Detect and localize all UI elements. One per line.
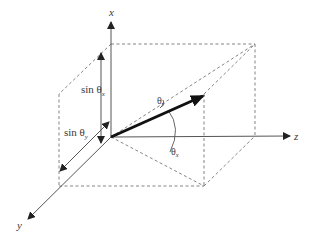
box-top-right-edge — [204, 44, 255, 94]
diagonal-to-corner — [111, 44, 255, 137]
sin-theta-x-label: sin θx — [81, 83, 106, 98]
axes — [28, 22, 290, 219]
box-bottom-right-edge — [204, 136, 255, 186]
theta-x-label: θx — [171, 146, 179, 158]
y-axis — [28, 137, 111, 219]
projection-line — [111, 137, 204, 186]
z-axis — [111, 136, 290, 137]
z-axis-label: z — [293, 130, 299, 142]
direction-cosine-diagram: x z y sin θx sin θy θy θx — [0, 0, 314, 241]
x-axis-label: x — [108, 6, 114, 18]
sin-theta-y-label: sin θy — [64, 126, 89, 141]
theta-y-label: θy — [157, 95, 165, 107]
y-axis-label: y — [16, 219, 22, 231]
